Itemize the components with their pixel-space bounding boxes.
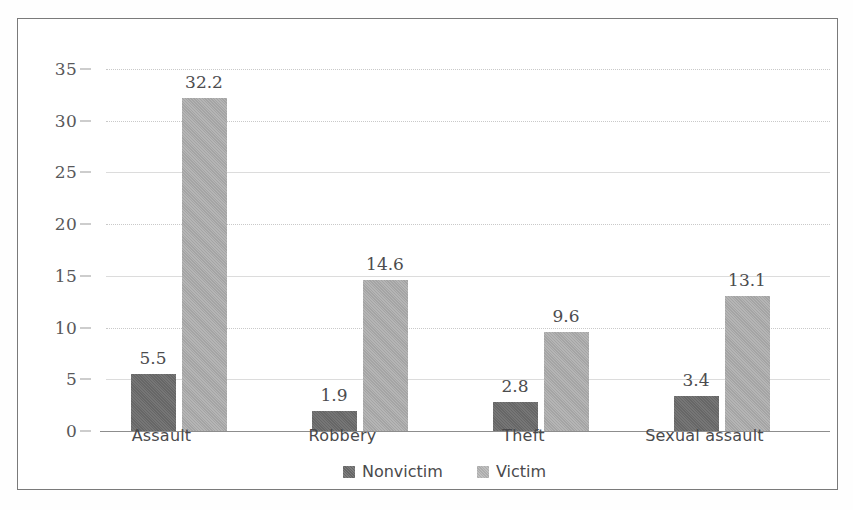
legend-swatch-icon [343, 466, 355, 478]
y-axis-tick-label: 0 [31, 421, 77, 441]
y-axis-tick-label: 10 [31, 318, 77, 338]
bar-value-label: 32.2 [185, 72, 223, 92]
gridline-35 [106, 69, 830, 70]
bar-victim-robbery[interactable] [363, 280, 408, 431]
plot-area: 5.532.21.914.62.89.63.413.1 [106, 69, 830, 431]
bar-victim-sexual-assault[interactable] [725, 296, 770, 431]
bar-victim-theft[interactable] [544, 332, 589, 431]
legend-label: Victim [496, 462, 546, 481]
y-axis-tick-mark [80, 431, 91, 432]
figure-container: 5.532.21.914.62.89.63.413.1 051015202530… [0, 0, 853, 510]
y-axis-tick-label: 35 [31, 59, 77, 79]
legend-label: Nonvictim [362, 462, 443, 481]
y-axis-tick-mark [80, 120, 91, 121]
y-axis-tick-label: 5 [31, 369, 77, 389]
bar-value-label: 3.4 [682, 370, 709, 390]
legend-item-nonvictim[interactable]: Nonvictim [343, 462, 443, 481]
figure-frame-border: 5.532.21.914.62.89.63.413.1 051015202530… [17, 18, 838, 490]
bar-value-label: 2.8 [501, 376, 528, 396]
y-axis-tick-label: 25 [31, 162, 77, 182]
bar-victim-assault[interactable] [182, 98, 227, 431]
bar-nonvictim-assault[interactable] [131, 374, 176, 431]
y-axis-tick-label: 15 [31, 266, 77, 286]
x-axis-category-label: Sexual assault [645, 426, 764, 445]
x-axis-category-label: Assault [132, 426, 192, 445]
y-axis-tick-label: 30 [31, 111, 77, 131]
y-axis-tick-mark [80, 327, 91, 328]
x-axis-category-label: Robbery [309, 426, 377, 445]
legend-swatch-icon [477, 466, 489, 478]
bar-value-label: 9.6 [552, 306, 579, 326]
bar-value-label: 5.5 [139, 348, 166, 368]
y-axis-tick-mark [80, 275, 91, 276]
bar-value-label: 13.1 [728, 270, 766, 290]
y-axis-tick-label: 20 [31, 214, 77, 234]
x-axis-category-label: Theft [502, 426, 544, 445]
y-axis-tick-mark [80, 172, 91, 173]
y-axis-tick-mark [80, 224, 91, 225]
bar-value-label: 14.6 [366, 254, 404, 274]
chart-legend: NonvictimVictim [18, 462, 853, 481]
y-axis-tick-mark [80, 69, 91, 70]
y-axis-tick-mark [80, 379, 91, 380]
bar-value-label: 1.9 [320, 385, 347, 405]
legend-item-victim[interactable]: Victim [477, 462, 546, 481]
